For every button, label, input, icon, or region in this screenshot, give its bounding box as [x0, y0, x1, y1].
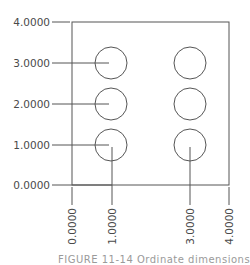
x-label-1: 1.0000 — [106, 208, 118, 245]
x-label-0: 0.0000 — [66, 208, 78, 245]
figure-caption: FIGURE 11-14 Ordinate dimensions — [58, 254, 250, 265]
y-label-4: 4.0000 — [13, 16, 50, 28]
y-label-3: 3.0000 — [13, 57, 50, 69]
y-label-1: 1.0000 — [13, 139, 50, 151]
x-ordinate-leaders — [72, 147, 229, 205]
holes — [95, 47, 206, 161]
hole-3-2 — [174, 88, 206, 120]
y-ordinate-leaders — [52, 22, 112, 185]
x-label-3: 3.0000 — [184, 208, 196, 245]
hole-3-3 — [174, 47, 206, 79]
y-label-0: 0.0000 — [13, 179, 50, 191]
x-label-4: 4.0000 — [223, 208, 235, 245]
y-label-2: 2.0000 — [13, 98, 50, 110]
